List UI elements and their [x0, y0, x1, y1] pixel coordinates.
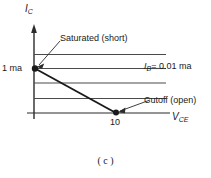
x-tick-label-10: 10 [110, 117, 120, 127]
x-axis-label: VCE [172, 112, 188, 125]
characteristic-curve-plot [0, 0, 211, 178]
load-line [32, 65, 119, 115]
saturation-point [32, 65, 38, 71]
cutoff-point [113, 110, 119, 116]
y-axis-label: IC [25, 4, 33, 17]
annotation-cutoff: Cutoff (open) [144, 95, 196, 105]
y-axis-label-subscript: C [28, 8, 33, 15]
figure-caption: ( c ) [0, 155, 211, 166]
x-axis-label-symbol: V [172, 111, 179, 122]
annotation-saturated: Saturated (short) [60, 33, 128, 43]
saturated-leader [39, 41, 60, 65]
figure-container: IC VCE 1 ma 10 Saturated (short) IB= 0.0… [0, 0, 211, 178]
x-axis-label-subscript: CE [179, 116, 189, 123]
annotation-ib-value: = 0.01 ma [151, 61, 191, 71]
y-tick-label-1ma: 1 ma [2, 63, 22, 73]
annotation-ib: IB= 0.01 ma [144, 61, 191, 74]
cutoff-arrow-head [118, 108, 125, 114]
